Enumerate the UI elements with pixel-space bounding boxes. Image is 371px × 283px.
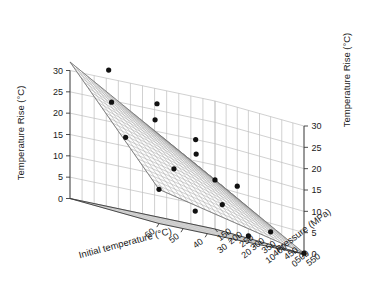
surface-plot-svg: 0510152025300510152025306050403020100150… xyxy=(0,0,371,283)
data-point xyxy=(193,137,198,142)
z-left-tick-label: 25 xyxy=(53,87,63,97)
data-point xyxy=(171,166,176,171)
z-left-tick-label: 5 xyxy=(58,172,63,182)
data-point xyxy=(123,135,128,140)
z-right-axis-title: Temperature Rise (°C) xyxy=(341,33,352,128)
data-point xyxy=(106,68,111,73)
z-left-tick-label: 15 xyxy=(53,130,63,140)
z-right-tick-label: 30 xyxy=(312,121,322,131)
z-left-tick-label: 30 xyxy=(53,66,63,76)
z-right-tick-label: 25 xyxy=(312,143,322,153)
data-point xyxy=(152,117,157,122)
plot-background xyxy=(0,0,371,283)
data-point xyxy=(220,202,225,207)
z-left-axis-title: Temperature Rise (°C) xyxy=(15,86,26,181)
data-point xyxy=(212,177,217,182)
data-point xyxy=(154,101,159,106)
z-right-tick-label: 15 xyxy=(312,185,322,195)
data-point xyxy=(268,229,273,234)
data-point xyxy=(193,208,198,213)
z-right-tick-label: 20 xyxy=(312,164,322,174)
z-left-tick-label: 0 xyxy=(58,194,63,204)
data-point xyxy=(194,151,199,156)
z-left-tick-label: 10 xyxy=(53,151,63,161)
figure-root: 0510152025300510152025306050403020100150… xyxy=(0,0,371,283)
data-point xyxy=(156,187,161,192)
data-point xyxy=(109,100,114,105)
z-left-tick-label: 20 xyxy=(53,108,63,118)
data-point xyxy=(235,184,240,189)
